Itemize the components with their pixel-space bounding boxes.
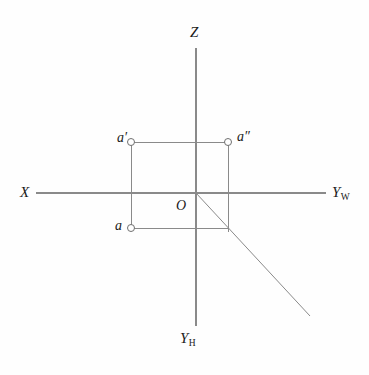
axis-label-z-text: Z [190,24,198,40]
point-label-a-prime: a′ [117,131,127,145]
axis-label-yw: YW [332,185,349,200]
construction-line-bisector-diagonal [196,193,310,316]
axis-label-yh: YH [180,331,195,346]
point-marker-a [128,225,135,232]
axis-label-x-text: X [20,184,29,200]
axis-label-x: X [20,185,29,200]
axis-label-z: Z [190,25,198,40]
point-marker-a-prime [128,139,135,146]
axis-label-yw-subscript: W [341,192,350,202]
projection-diagram: Z X YW YH O a′ a″ a [0,0,369,375]
axis-label-yw-text: Y [332,184,340,200]
point-label-a-double-prime: a″ [237,130,250,144]
point-marker-a-double-prime [225,139,232,146]
axis-label-yh-subscript: H [189,338,196,348]
axis-label-yh-text: Y [180,330,188,346]
origin-label: O [176,199,186,213]
point-label-a: a [115,219,122,233]
diagram-canvas [0,0,369,375]
